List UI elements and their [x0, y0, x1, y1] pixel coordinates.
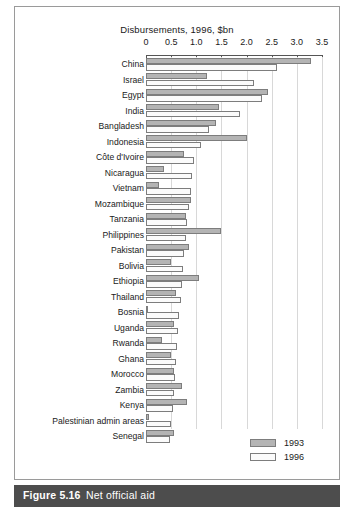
- bar-1993: [146, 337, 162, 343]
- bar-1993: [146, 383, 182, 389]
- category-label: Rwanda: [112, 337, 144, 350]
- x-axis-tick-label: 2.0: [240, 37, 253, 47]
- bar-1996: [146, 235, 186, 241]
- chart-row: Philippines: [0, 228, 356, 244]
- category-label: Côte d'Ivoire: [96, 151, 144, 164]
- bar-1996: [146, 219, 187, 225]
- category-label: Uganda: [114, 322, 144, 335]
- chart-rows: ChinaIsraelEgyptIndiaBangladeshIndonesia…: [0, 57, 356, 429]
- figure-caption-banner: Figure 5.16 Net official aid: [14, 485, 340, 507]
- bar-1996: [146, 266, 183, 272]
- bar-1996: [146, 297, 181, 303]
- chart-row: Bolivia: [0, 259, 356, 275]
- chart-row: Ghana: [0, 352, 356, 368]
- category-label: Zambia: [115, 384, 144, 397]
- bar-1996: [146, 142, 201, 148]
- bar-1993: [146, 213, 186, 219]
- x-axis-tick-labels: 00.51.01.52.02.53.03.5: [0, 37, 356, 49]
- bar-1993: [146, 244, 189, 250]
- bar-1993: [146, 259, 171, 265]
- chart-row: Egypt: [0, 88, 356, 104]
- category-label: Kenya: [120, 399, 144, 412]
- bar-1996: [146, 312, 179, 318]
- bar-1996: [146, 64, 277, 70]
- chart-row: Indonesia: [0, 135, 356, 151]
- bar-1993: [146, 228, 221, 234]
- bar-1996: [146, 281, 182, 287]
- chart-row: Bosnia: [0, 305, 356, 321]
- legend-swatch: [250, 439, 276, 447]
- figure-caption-text: Net official aid: [86, 489, 155, 501]
- bar-1996: [146, 436, 170, 442]
- chart-row: Côte d'Ivoire: [0, 150, 356, 166]
- bar-1993: [146, 414, 149, 420]
- x-axis-tick-label: 2.5: [265, 37, 278, 47]
- category-label: Tanzania: [110, 213, 144, 226]
- bar-1993: [146, 197, 191, 203]
- bar-1993: [146, 120, 216, 126]
- category-label: Ghana: [118, 353, 144, 366]
- chart-row: Uganda: [0, 321, 356, 337]
- category-label: Bolivia: [119, 260, 144, 273]
- category-label: Morocco: [111, 368, 144, 381]
- chart-row: Israel: [0, 73, 356, 89]
- bar-1993: [146, 182, 159, 188]
- category-label: Senegal: [112, 430, 144, 443]
- chart-row: China: [0, 57, 356, 73]
- category-label: Mozambique: [95, 198, 144, 211]
- x-axis-tick-label: 1.5: [215, 37, 228, 47]
- chart-row: Tanzania: [0, 212, 356, 228]
- chart-legend: 19931996: [250, 437, 324, 465]
- bar-1993: [146, 290, 176, 296]
- bar-1996: [146, 204, 189, 210]
- bar-1996: [146, 405, 173, 411]
- bar-1996: [146, 188, 191, 194]
- legend-swatch: [250, 453, 276, 461]
- chart-row: Thailand: [0, 290, 356, 306]
- chart-row: Nicaragua: [0, 166, 356, 182]
- chart-row: Mozambique: [0, 197, 356, 213]
- category-label: Philippines: [102, 229, 144, 242]
- category-label: Bosnia: [118, 306, 144, 319]
- bar-1996: [146, 95, 262, 101]
- bar-1993: [146, 166, 164, 172]
- figure-net-official-aid: Disbursements, 1996, $bn 00.51.01.52.02.…: [0, 0, 356, 514]
- chart-row: Palestinian admin areas: [0, 414, 356, 430]
- bar-1993: [146, 352, 171, 358]
- category-label: Nicaragua: [105, 167, 144, 180]
- category-label: China: [122, 58, 144, 71]
- category-label: Ethiopia: [113, 275, 144, 288]
- x-axis-tick-label: 3.0: [291, 37, 304, 47]
- bar-1996: [146, 111, 240, 117]
- bar-1996: [146, 359, 176, 365]
- category-label: Indonesia: [107, 136, 144, 149]
- x-axis-tick-label: 3.5: [316, 37, 329, 47]
- x-axis-tick-label: 1.0: [190, 37, 203, 47]
- bar-1996: [146, 250, 184, 256]
- category-label: Vietnam: [113, 182, 144, 195]
- bar-1993: [146, 430, 174, 436]
- x-axis-tick-label: 0: [143, 37, 148, 47]
- bar-1993: [146, 89, 268, 95]
- bar-1993: [146, 399, 187, 405]
- category-label: Bangladesh: [99, 120, 144, 133]
- bar-1993: [146, 104, 219, 110]
- legend-label: 1996: [284, 451, 304, 463]
- bar-1996: [146, 80, 254, 86]
- bar-1996: [146, 173, 192, 179]
- bar-1996: [146, 343, 177, 349]
- chart-row: Morocco: [0, 367, 356, 383]
- bar-1996: [146, 157, 194, 163]
- legend-entry: 1993: [250, 437, 324, 451]
- legend-label: 1993: [284, 437, 304, 449]
- chart-row: Ethiopia: [0, 274, 356, 290]
- legend-entry: 1996: [250, 451, 324, 465]
- chart-row: Rwanda: [0, 336, 356, 352]
- figure-caption-number: Figure 5.16: [23, 489, 81, 501]
- chart-row: Vietnam: [0, 181, 356, 197]
- chart-title: Disbursements, 1996, $bn: [14, 24, 340, 35]
- bar-1996: [146, 390, 174, 396]
- bar-1993: [146, 58, 311, 64]
- bar-1993: [146, 73, 207, 79]
- category-label: Pakistan: [111, 244, 144, 257]
